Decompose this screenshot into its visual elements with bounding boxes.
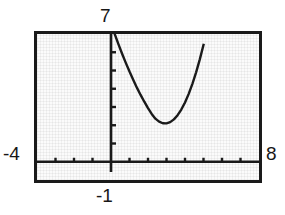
x-min-label: -4 [3, 144, 20, 163]
y-min-label: -1 [96, 186, 113, 205]
calculator-screen [34, 31, 262, 183]
y-max-label: 7 [100, 6, 111, 25]
plot-area [37, 34, 259, 180]
y-axis [111, 34, 116, 172]
x-max-label: 8 [266, 144, 277, 163]
function-curve [115, 34, 204, 123]
x-axis [37, 158, 259, 162]
calculator-screenshot: 7 -4 8 -1 [0, 0, 285, 215]
